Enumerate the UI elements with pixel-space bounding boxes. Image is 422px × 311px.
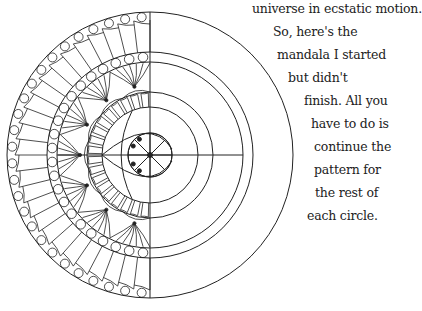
caption-line: universe in ecstatic motion. (252, 0, 422, 18)
caption-line: So, here's the (273, 23, 357, 41)
caption-line: pattern for (314, 161, 381, 179)
caption-line: continue the (314, 138, 391, 156)
caption-line: the rest of (315, 184, 378, 202)
caption-line: finish. All you (304, 92, 388, 110)
mandala-center (57, 110, 172, 199)
caption-line: mandala I started (277, 46, 386, 64)
caption-line: each circle. (307, 207, 378, 225)
caption-line: but didn't (288, 69, 348, 87)
caption-line: have to do is (311, 115, 389, 133)
